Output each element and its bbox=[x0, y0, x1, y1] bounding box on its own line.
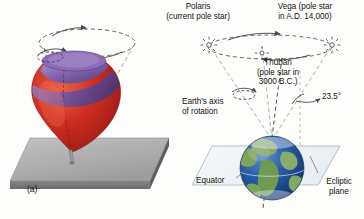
label-polaris: Polaris (current pole star) bbox=[150, 2, 246, 21]
panel-label: (a) bbox=[27, 185, 49, 195]
star-burst-icon bbox=[324, 37, 341, 54]
label-tilt-angle: 23.5° bbox=[322, 92, 356, 102]
label-ecliptic-plane: Ecliptic plane bbox=[316, 177, 362, 196]
label-equator: Equator bbox=[196, 176, 246, 186]
label-earth-axis: Earth's axis of rotation bbox=[182, 97, 258, 116]
table-slab bbox=[10, 138, 169, 189]
star-burst-icon bbox=[201, 37, 218, 54]
label-vega: Vega (pole star in A.D. 14,000) bbox=[252, 2, 358, 21]
label-thuban: Thuban (pole star in 3000 B.C.) bbox=[235, 58, 321, 87]
